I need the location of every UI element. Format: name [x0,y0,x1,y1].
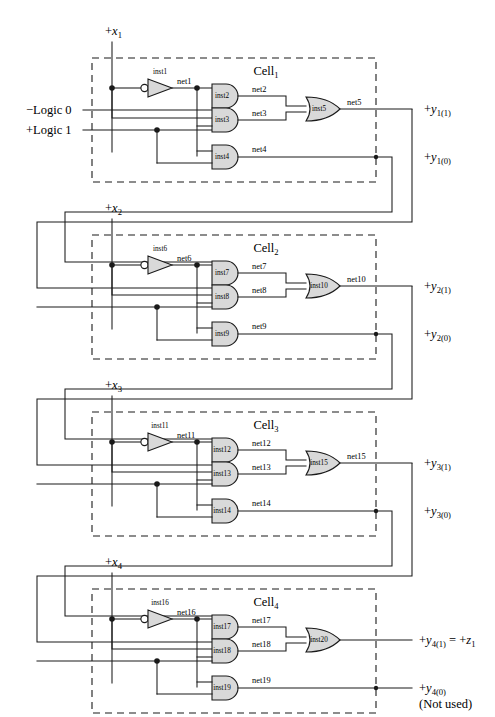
net18-wire [238,643,306,651]
cell-1-group: +x1 −Logic 0 +Logic 1 inst1 net1 inst2 n… [26,24,451,182]
or-gate-inst5-label: inst5 [312,105,326,113]
output-y2-1-label: +y2(1) [424,279,451,295]
net12-wire [238,450,306,460]
output-y3-0-label: +y3(0) [424,504,451,520]
clock-input-x1-label: +x1 [105,24,122,40]
logic1-junction-dot-cell1 [154,127,160,133]
net19-label: net19 [252,676,271,685]
or-gate-inst10-label: inst10 [310,282,328,290]
cell-2-group: +x2 inst6 net6 inst7 net7 inst8 net8 ins… [37,201,451,359]
inverter1-body [148,79,172,97]
logic0-label: −Logic 0 [26,103,72,117]
net13-label: net13 [252,463,271,472]
inverter16-body [148,610,172,628]
clock-input-x4-label: +x4 [105,555,123,571]
output-y2-0-label: +y2(0) [424,327,451,343]
inverter16-label: inst16 [151,599,169,607]
and-gate-inst19-label: inst19 [213,684,231,692]
and-gate-inst17-label: inst17 [213,623,231,631]
cell-3-group: +x3 inst11 net11 inst12 net12 inst13 net… [37,378,451,536]
net9-label: net9 [252,322,266,331]
net7-wire [238,273,306,283]
net3-label: net3 [252,109,266,118]
inverter6-body [148,256,172,274]
net11-label: net11 [177,431,195,440]
circuit-diagram: +x1 −Logic 0 +Logic 1 inst1 net1 inst2 n… [0,0,495,717]
net12-label: net12 [252,439,271,448]
net17-label: net17 [252,616,271,625]
inverter1-label: inst1 [153,68,167,76]
net2-label: net2 [252,85,266,94]
and-gate-inst9-label: inst9 [215,330,229,338]
net14-label: net14 [252,499,271,508]
net19-tap-dot [374,686,378,690]
and-gate-inst4-label: inst4 [215,153,229,161]
and-gate-inst7-label: inst7 [215,269,229,277]
output-y3-1-label: +y3(1) [424,456,451,472]
net6-label: net6 [177,254,191,263]
net15-label: net15 [347,452,366,461]
and-gate-inst3-label: inst3 [215,116,229,124]
net1-label: net1 [177,77,191,86]
net4-label: net4 [252,145,267,154]
inverter16-bubble-icon [141,615,148,622]
net10-label: net10 [347,275,366,284]
and-gate-inst14-label: inst14 [213,507,231,515]
inverter11-body [148,433,172,451]
and-gate-inst18-label: inst18 [213,647,231,655]
and-gate-inst12-label: inst12 [213,446,231,454]
output-y4-1-label: +y4(1) = +z1 [419,633,475,649]
output-y1-0-label: +y1(0) [424,150,451,166]
clock-input-x2-label: +x2 [105,201,122,217]
inverter6-label: inst6 [153,245,167,253]
cell-4-group: +x4 inst16 net16 inst17 net17 inst18 net… [37,555,475,713]
inverter11-label: inst11 [151,422,169,430]
net7-label: net7 [252,262,266,271]
cell-3-title: Cell3 [253,418,278,434]
clock-input-x3-label: +x3 [105,378,122,394]
cell-1-title: Cell1 [253,64,278,80]
net8-wire [238,289,306,297]
or-gate-inst15-label: inst15 [310,459,328,467]
net16-label: net16 [177,608,196,617]
and-gate-inst2-label: inst2 [215,92,229,100]
cell-2-title: Cell2 [253,241,278,257]
inverter11-bubble-icon [141,438,148,445]
output-y1-1-label: +y1(1) [424,102,451,118]
or-gate-inst20-label: inst20 [310,636,328,644]
net18-label: net18 [252,640,271,649]
inverter6-bubble-icon [141,261,148,268]
output-y4-0-label: +y4(0) [419,681,446,697]
net13-wire [238,466,306,474]
net3-wire [238,112,306,120]
logic1-label: +Logic 1 [26,123,72,137]
net8-label: net8 [252,286,266,295]
net5-label: net5 [347,98,361,107]
and-gate-inst8-label: inst8 [215,293,229,301]
net17-wire [238,627,306,637]
and-gate-inst13-label: inst13 [213,470,231,478]
inverter1-bubble-icon [141,84,148,91]
cell-4-title: Cell4 [253,595,279,611]
output-y4-0-note: (Not used) [419,697,472,711]
net2-wire [238,96,306,106]
